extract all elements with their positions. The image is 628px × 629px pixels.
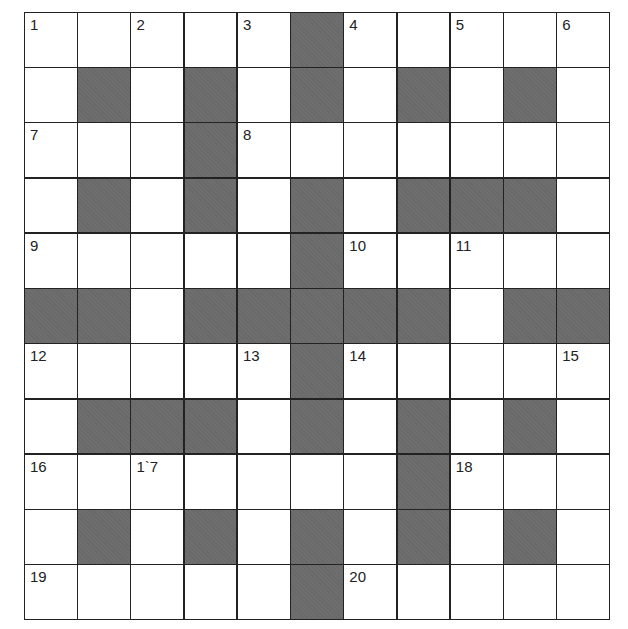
letter-cell[interactable] bbox=[344, 179, 396, 233]
letter-cell[interactable] bbox=[78, 455, 130, 509]
letter-cell[interactable] bbox=[504, 565, 556, 619]
letter-cell[interactable] bbox=[557, 68, 609, 122]
clue-number: 12 bbox=[30, 348, 47, 363]
letter-cell[interactable]: 13 bbox=[238, 344, 290, 398]
letter-cell[interactable]: 4 bbox=[344, 13, 396, 67]
letter-cell[interactable] bbox=[131, 179, 183, 233]
letter-cell[interactable] bbox=[131, 510, 183, 564]
letter-cell[interactable]: 1`7 bbox=[131, 455, 183, 509]
letter-cell[interactable] bbox=[238, 400, 290, 454]
letter-cell[interactable] bbox=[504, 234, 556, 288]
letter-cell[interactable] bbox=[25, 179, 77, 233]
letter-cell[interactable]: 2 bbox=[131, 13, 183, 67]
letter-cell[interactable] bbox=[131, 289, 183, 343]
letter-cell[interactable] bbox=[344, 510, 396, 564]
letter-cell[interactable] bbox=[451, 510, 503, 564]
letter-cell[interactable] bbox=[398, 13, 450, 67]
block-cell bbox=[291, 565, 343, 619]
letter-cell[interactable] bbox=[557, 455, 609, 509]
letter-cell[interactable] bbox=[131, 234, 183, 288]
letter-cell[interactable] bbox=[78, 344, 130, 398]
letter-cell[interactable] bbox=[25, 510, 77, 564]
letter-cell[interactable] bbox=[504, 123, 556, 177]
letter-cell[interactable] bbox=[398, 123, 450, 177]
letter-cell[interactable] bbox=[451, 123, 503, 177]
letter-cell[interactable] bbox=[557, 400, 609, 454]
block-cell bbox=[504, 179, 556, 233]
letter-cell[interactable]: 7 bbox=[25, 123, 77, 177]
letter-cell[interactable] bbox=[557, 510, 609, 564]
letter-cell[interactable]: 18 bbox=[451, 455, 503, 509]
letter-cell[interactable]: 6 bbox=[557, 13, 609, 67]
letter-cell[interactable]: 12 bbox=[25, 344, 77, 398]
clue-number: 14 bbox=[349, 348, 366, 363]
letter-cell[interactable]: 19 bbox=[25, 565, 77, 619]
letter-cell[interactable] bbox=[25, 68, 77, 122]
letter-cell[interactable]: 15 bbox=[557, 344, 609, 398]
letter-cell[interactable] bbox=[78, 13, 130, 67]
letter-cell[interactable] bbox=[238, 510, 290, 564]
letter-cell[interactable] bbox=[185, 344, 237, 398]
clue-number: 1`7 bbox=[136, 459, 158, 474]
letter-cell[interactable] bbox=[398, 565, 450, 619]
block-cell bbox=[398, 179, 450, 233]
letter-cell[interactable] bbox=[291, 455, 343, 509]
letter-cell[interactable] bbox=[185, 565, 237, 619]
block-cell bbox=[504, 68, 556, 122]
letter-cell[interactable] bbox=[344, 455, 396, 509]
letter-cell[interactable]: 1 bbox=[25, 13, 77, 67]
clue-number: 20 bbox=[349, 569, 366, 584]
letter-cell[interactable] bbox=[344, 68, 396, 122]
clue-number: 9 bbox=[30, 238, 38, 253]
letter-cell[interactable]: 3 bbox=[238, 13, 290, 67]
letter-cell[interactable] bbox=[238, 455, 290, 509]
letter-cell[interactable] bbox=[238, 179, 290, 233]
letter-cell[interactable] bbox=[504, 455, 556, 509]
letter-cell[interactable]: 9 bbox=[25, 234, 77, 288]
letter-cell[interactable] bbox=[451, 400, 503, 454]
letter-cell[interactable]: 8 bbox=[238, 123, 290, 177]
block-cell bbox=[451, 179, 503, 233]
letter-cell[interactable] bbox=[78, 565, 130, 619]
letter-cell[interactable] bbox=[344, 123, 396, 177]
letter-cell[interactable] bbox=[131, 565, 183, 619]
letter-cell[interactable] bbox=[291, 123, 343, 177]
letter-cell[interactable] bbox=[398, 234, 450, 288]
letter-cell[interactable]: 14 bbox=[344, 344, 396, 398]
letter-cell[interactable] bbox=[504, 13, 556, 67]
letter-cell[interactable] bbox=[78, 234, 130, 288]
letter-cell[interactable] bbox=[131, 344, 183, 398]
letter-cell[interactable] bbox=[451, 344, 503, 398]
letter-cell[interactable] bbox=[185, 13, 237, 67]
letter-cell[interactable] bbox=[557, 179, 609, 233]
letter-cell[interactable] bbox=[557, 123, 609, 177]
letter-cell[interactable] bbox=[131, 123, 183, 177]
letter-cell[interactable] bbox=[344, 400, 396, 454]
letter-cell[interactable] bbox=[451, 68, 503, 122]
letter-cell[interactable] bbox=[398, 344, 450, 398]
letter-cell[interactable]: 16 bbox=[25, 455, 77, 509]
letter-cell[interactable] bbox=[238, 68, 290, 122]
letter-cell[interactable]: 11 bbox=[451, 234, 503, 288]
letter-cell[interactable] bbox=[504, 344, 556, 398]
block-cell bbox=[185, 400, 237, 454]
letter-cell[interactable]: 20 bbox=[344, 565, 396, 619]
letter-cell[interactable] bbox=[557, 565, 609, 619]
letter-cell[interactable] bbox=[238, 234, 290, 288]
letter-cell[interactable] bbox=[557, 234, 609, 288]
block-cell bbox=[398, 400, 450, 454]
letter-cell[interactable] bbox=[185, 234, 237, 288]
letter-cell[interactable] bbox=[185, 455, 237, 509]
clue-number: 11 bbox=[456, 238, 472, 253]
letter-cell[interactable] bbox=[451, 565, 503, 619]
letter-cell[interactable]: 5 bbox=[451, 13, 503, 67]
letter-cell[interactable] bbox=[238, 565, 290, 619]
letter-cell[interactable]: 10 bbox=[344, 234, 396, 288]
clue-number: 6 bbox=[562, 17, 570, 32]
letter-cell[interactable] bbox=[78, 123, 130, 177]
block-cell bbox=[78, 510, 130, 564]
letter-cell[interactable] bbox=[451, 289, 503, 343]
letter-cell[interactable] bbox=[25, 400, 77, 454]
clue-number: 10 bbox=[349, 238, 366, 253]
letter-cell[interactable] bbox=[131, 68, 183, 122]
